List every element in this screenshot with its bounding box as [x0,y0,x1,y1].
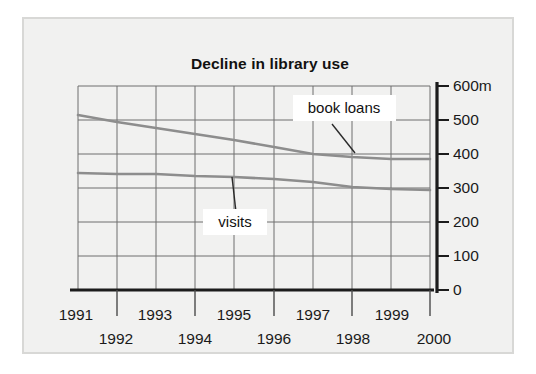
chart-title: Decline in library use [24,55,516,73]
figure-frame: Decline in library use [22,17,514,354]
screenshot-root: Decline in library use [0,0,536,374]
